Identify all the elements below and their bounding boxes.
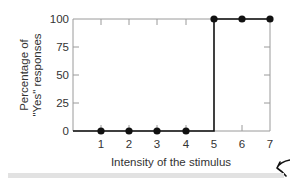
data-point-6 [238,15,245,22]
y-tick-labels: 100 75 50 25 0 [50,13,69,137]
x-tick-5: 5 [211,138,217,150]
x-tick-1: 1 [98,138,104,150]
y-tick-50: 50 [56,69,69,81]
x-tick-6: 6 [239,138,245,150]
data-point-4 [182,127,189,134]
data-point-7 [266,15,273,22]
y-axis-label-line1: Percentage of [18,38,30,110]
plot-frame [73,19,270,131]
x-tick-7: 7 [267,138,273,150]
x-tick-3: 3 [154,138,160,150]
step-function-chart: Percentage of "Yes" responses 100 75 50 … [0,0,290,180]
y-tick-25: 25 [56,97,69,109]
x-axis-label: Intensity of the stimulus [111,156,231,168]
step-line [73,19,270,131]
y-tick-0: 0 [63,125,69,137]
data-point-2 [125,127,132,134]
data-point-5 [210,15,217,22]
data-markers [97,15,273,134]
y-axis-label: Percentage of "Yes" responses [18,33,43,116]
x-tick-4: 4 [183,138,190,150]
x-ticks [101,19,242,131]
data-point-3 [153,127,160,134]
x-tick-2: 2 [126,138,132,150]
y-tick-100: 100 [50,13,69,25]
y-ticks [73,47,270,103]
y-axis-label-line2: "Yes" responses [31,33,43,116]
y-tick-75: 75 [56,41,69,53]
data-point-1 [97,127,104,134]
bottom-divider-bar [8,173,284,178]
x-tick-labels: 1 2 3 4 5 6 7 [98,138,273,150]
